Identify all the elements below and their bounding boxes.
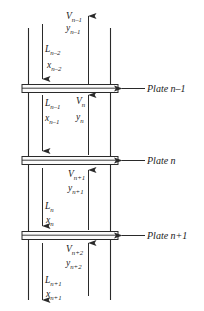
liquid-top-flow-sub: n–2 <box>50 49 61 56</box>
svg-text:yn: yn <box>75 112 84 124</box>
label-liquid-mid: Ln–1 xn–1 <box>44 98 61 125</box>
plate-n <box>22 157 118 165</box>
label-liquid-lower: Ln xn <box>44 201 54 227</box>
vapor-top-flow-sub: n–1 <box>72 16 82 23</box>
vapor-mid-flow-sub: n <box>82 101 86 108</box>
svg-text:Vn+2: Vn+2 <box>66 244 84 256</box>
svg-text:Ln: Ln <box>44 201 54 213</box>
vapor-bottom-comp-sub: n+2 <box>70 263 82 270</box>
label-vapor-mid: Vn yn <box>75 96 86 124</box>
column-plate-diagram: Vn–1 yn–1 Ln–2 xn–2 Ln–1 xn–1 <box>0 0 204 311</box>
plate-n-plus-1-label: Plate n+1 <box>146 230 187 241</box>
plate-n-minus-1 <box>22 85 118 93</box>
plate-n-label: Plate n <box>146 155 176 166</box>
svg-text:Vn: Vn <box>76 96 86 108</box>
svg-text:xn+1: xn+1 <box>45 289 62 301</box>
label-vapor-bottom: Vn+2 yn+2 <box>65 244 84 270</box>
liquid-bottom-comp-sub: n+1 <box>50 294 61 301</box>
svg-text:xn–1: xn–1 <box>44 113 59 125</box>
liquid-lower-flow-sub: n <box>50 206 54 213</box>
vapor-lower-flow-sub: n+1 <box>74 174 85 181</box>
vapor-lower-comp-sub: n+1 <box>72 188 83 195</box>
svg-text:Ln–1: Ln–1 <box>44 98 61 110</box>
liquid-bottom-flow-sub: n+1 <box>50 280 61 287</box>
svg-text:yn+1: yn+1 <box>67 183 84 195</box>
callout-plate-n-plus-1: Plate n+1 <box>122 230 187 241</box>
svg-text:xn–2: xn–2 <box>46 60 62 72</box>
svg-text:xn: xn <box>45 215 54 227</box>
label-vapor-lower: Vn+1 yn+1 <box>67 169 85 195</box>
liquid-mid-flow-sub: n–1 <box>50 103 60 110</box>
plate-n-minus-1-label: Plate n–1 <box>146 83 186 94</box>
vapor-top-comp-sub: n–1 <box>70 28 80 35</box>
vapor-mid-comp-sub: n <box>80 117 84 124</box>
svg-text:Ln+1: Ln+1 <box>44 275 62 287</box>
vapor-bottom-flow-sub: n+2 <box>72 249 84 256</box>
label-vapor-top: Vn–1 yn–1 <box>65 11 82 35</box>
liquid-lower-comp-sub: n <box>50 220 54 227</box>
callout-plate-n: Plate n <box>122 155 176 166</box>
plate-n-plus-1 <box>22 232 118 240</box>
svg-text:Vn+1: Vn+1 <box>68 169 85 181</box>
svg-text:yn–1: yn–1 <box>65 23 80 35</box>
callout-plate-n-minus-1: Plate n–1 <box>122 83 186 94</box>
label-liquid-bottom: Ln+1 xn+1 <box>44 275 62 301</box>
svg-text:Vn–1: Vn–1 <box>66 11 82 23</box>
liquid-top-comp-sub: n–2 <box>51 65 62 72</box>
svg-text:Ln–2: Ln–2 <box>44 44 61 56</box>
liquid-mid-comp-sub: n–1 <box>49 118 59 125</box>
svg-text:yn+2: yn+2 <box>65 258 82 270</box>
label-liquid-top: Ln–2 xn–2 <box>44 44 62 72</box>
figure-canvas: Vn–1 yn–1 Ln–2 xn–2 Ln–1 xn–1 <box>0 0 204 311</box>
